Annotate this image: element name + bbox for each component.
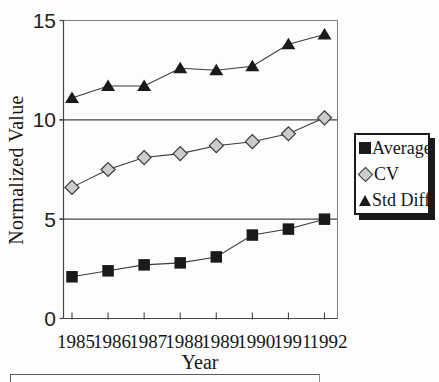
triangle-marker [65, 91, 79, 103]
x-tick-label: 1992 [310, 331, 348, 352]
x-tick-label: 1985 [57, 331, 95, 352]
legend-item-std-diff: Std Diff [359, 190, 427, 210]
legend: Average CV Std Diff [354, 133, 430, 215]
legend-label: Average [372, 138, 432, 159]
triangle-marker [173, 62, 187, 74]
diamond-marker [209, 139, 223, 153]
x-tick-label: 1986 [93, 331, 131, 352]
diamond-marker [245, 135, 259, 149]
square-marker [247, 229, 259, 241]
cut-off-box-top-edge [10, 374, 320, 382]
triangle-marker [281, 38, 295, 50]
legend-label: Std Diff [372, 190, 430, 211]
square-marker-icon [359, 142, 371, 154]
triangle-marker [137, 80, 151, 92]
y-tick-label: 0 [44, 307, 56, 330]
x-tick-label: 1990 [237, 331, 275, 352]
triangle-marker [245, 60, 259, 72]
x-tick-label: 1988 [165, 331, 203, 352]
square-marker [211, 251, 223, 263]
diamond-marker [281, 127, 295, 141]
y-tick-label: 15 [33, 9, 56, 32]
square-marker [138, 259, 150, 271]
legend-item-average: Average [359, 138, 427, 158]
x-tick-label: 1987 [129, 331, 167, 352]
line-chart-figure: 05101519851986198719881989199019911992 N… [0, 0, 439, 382]
square-marker [283, 223, 295, 235]
x-axis-title: Year [130, 351, 270, 375]
diamond-marker [65, 180, 79, 194]
diamond-marker [137, 151, 151, 165]
square-marker [174, 257, 186, 269]
diamond-marker [173, 147, 187, 161]
diamond-marker [101, 163, 115, 177]
y-tick-label: 10 [33, 108, 56, 131]
diamond-marker [318, 111, 332, 125]
x-tick-label: 1989 [201, 331, 239, 352]
triangle-marker [318, 28, 332, 40]
square-marker [102, 265, 114, 277]
x-tick-label: 1991 [273, 331, 311, 352]
triangle-marker-icon [359, 195, 371, 206]
triangle-marker [101, 80, 115, 92]
diamond-marker-icon [358, 166, 374, 182]
legend-label: CV [374, 164, 399, 185]
y-axis-title: Normalized Value [5, 69, 29, 271]
square-marker [66, 271, 78, 283]
y-tick-label: 5 [44, 208, 56, 231]
legend-item-cv: CV [359, 164, 427, 184]
square-marker [319, 213, 331, 225]
